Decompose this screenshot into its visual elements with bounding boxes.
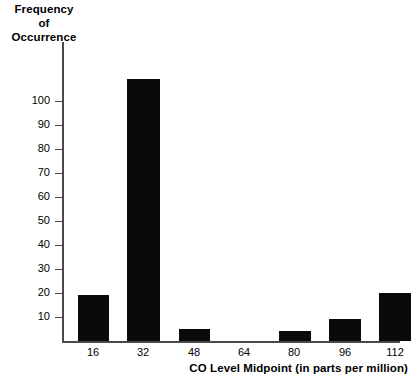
y-axis-line [62,42,64,343]
y-axis-tick-label: 100 [32,94,50,107]
x-axis-tick-label-16: 16 [87,346,99,359]
bar-16 [78,295,109,341]
y-axis-tick: 40 [55,245,64,246]
y-axis-tick-label: 10 [38,310,50,323]
y-axis-tick-label: 70 [38,166,50,179]
bar-80 [279,331,311,341]
x-axis-tick-label-80: 80 [288,346,300,359]
y-axis-tick: 80 [55,149,64,150]
y-axis-tick-label: 80 [38,142,50,155]
x-axis-line [62,341,400,343]
bar-96 [329,319,361,341]
y-axis-tick: 10 [55,317,64,318]
y-axis-tick-label: 20 [38,286,50,299]
y-axis-tick: 70 [55,173,64,174]
y-axis-tick: 60 [55,197,64,198]
y-axis-tick-label: 50 [38,214,50,227]
y-axis-tick-label: 60 [38,190,50,203]
y-axis-tick-label: 30 [38,262,50,275]
y-axis-tick: 100 [55,101,64,102]
bar-112 [379,293,411,341]
y-axis-title-line-2: of [0,16,88,30]
y-axis-tick-label: 40 [38,238,50,251]
x-axis-tick-label-112: 112 [386,346,404,359]
x-axis-tick-label-48: 48 [188,346,200,359]
bar-chart: Frequency of Occurrence 10 20 30 40 50 6… [0,0,412,379]
bar-32 [127,79,160,341]
x-axis-tick-label-32: 32 [137,346,149,359]
x-axis-tick-label-96: 96 [339,346,351,359]
x-axis-tick-label-64: 64 [238,346,250,359]
y-axis-tick: 90 [55,125,64,126]
y-axis-tick-label: 90 [38,118,50,131]
y-axis-title-line-1: Frequency [0,2,88,16]
y-axis-title: Frequency of Occurrence [0,2,88,44]
y-axis-tick: 20 [55,293,64,294]
y-axis-tick: 30 [55,269,64,270]
y-axis-tick: 50 [55,221,64,222]
plot-area: 10 20 30 40 50 60 70 80 90 100 [62,42,400,343]
bar-48 [179,329,210,341]
x-axis-title: CO Level Midpoint (in parts per million) [0,362,408,374]
